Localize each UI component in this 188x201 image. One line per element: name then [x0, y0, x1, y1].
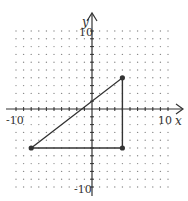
grid-dot: [167, 46, 168, 47]
grid-dot: [129, 54, 130, 55]
grid-dot: [61, 101, 62, 102]
grid-dot: [38, 171, 39, 172]
grid-dot: [46, 93, 47, 94]
grid-dot: [107, 116, 108, 117]
grid-dot: [84, 124, 85, 125]
grid-dot: [69, 38, 70, 39]
grid-dot: [69, 69, 70, 70]
grid-dot: [15, 69, 16, 70]
grid-dot: [46, 62, 47, 63]
grid-dot: [160, 62, 161, 63]
grid-dot: [114, 30, 115, 31]
grid-dot: [38, 69, 39, 70]
grid-dot: [137, 62, 138, 63]
grid-dot: [23, 30, 24, 31]
grid-dot: [76, 124, 77, 125]
grid-dot: [15, 62, 16, 63]
grid-dot: [137, 69, 138, 70]
grid-dot: [84, 171, 85, 172]
grid-dot: [15, 132, 16, 133]
grid-dot: [38, 140, 39, 141]
grid-dot: [129, 116, 130, 117]
grid-dot: [69, 124, 70, 125]
vertex-point: [120, 75, 125, 80]
grid-dot: [167, 140, 168, 141]
grid-dot: [15, 155, 16, 156]
grid-dot: [84, 69, 85, 70]
grid-dot: [137, 46, 138, 47]
grid-dot: [23, 171, 24, 172]
grid-dot: [99, 186, 100, 187]
grid-dot: [107, 30, 108, 31]
grid-dot: [99, 132, 100, 133]
grid-dot: [129, 186, 130, 187]
grid-dot: [46, 140, 47, 141]
grid-dot: [69, 54, 70, 55]
grid-dot: [114, 69, 115, 70]
grid-dot: [152, 124, 153, 125]
grid-dot: [160, 93, 161, 94]
grid-dot: [160, 155, 161, 156]
grid-dot: [122, 179, 123, 180]
grid-dot: [152, 155, 153, 156]
grid-dot: [15, 54, 16, 55]
grid-dot: [137, 179, 138, 180]
grid-dot: [137, 77, 138, 78]
grid-dot: [23, 163, 24, 164]
grid-dot: [69, 155, 70, 156]
grid-dot: [38, 30, 39, 31]
grid-dot: [38, 38, 39, 39]
grid-dot: [107, 62, 108, 63]
grid-dot: [167, 132, 168, 133]
grid-dot: [31, 171, 32, 172]
grid-dot: [167, 38, 168, 39]
grid-dot: [61, 38, 62, 39]
grid-dot: [69, 132, 70, 133]
grid-dot: [38, 124, 39, 125]
grid-dot: [160, 179, 161, 180]
grid-dot: [46, 132, 47, 133]
grid-dot: [160, 69, 161, 70]
grid-dot: [99, 93, 100, 94]
grid-dot: [160, 30, 161, 31]
grid-dot: [84, 116, 85, 117]
grid-dot: [61, 132, 62, 133]
grid-dot: [167, 85, 168, 86]
grid-dot: [23, 62, 24, 63]
grid-dot: [31, 62, 32, 63]
grid-dot: [137, 38, 138, 39]
grid-dot: [53, 46, 54, 47]
grid-dot: [160, 54, 161, 55]
grid-dot: [152, 85, 153, 86]
grid-dot: [137, 85, 138, 86]
grid-dot: [114, 85, 115, 86]
grid-dot: [61, 30, 62, 31]
grid-dot: [31, 30, 32, 31]
grid-dot: [23, 85, 24, 86]
grid-dot: [152, 101, 153, 102]
grid-dot: [107, 140, 108, 141]
grid-dot: [114, 46, 115, 47]
grid-dot: [122, 155, 123, 156]
grid-dot: [145, 155, 146, 156]
grid-dot: [122, 171, 123, 172]
grid-dot: [129, 46, 130, 47]
grid-dot: [99, 116, 100, 117]
grid-dot: [145, 101, 146, 102]
grid-dot: [160, 85, 161, 86]
grid-dot: [137, 147, 138, 148]
grid-dot: [76, 54, 77, 55]
grid-dot: [99, 155, 100, 156]
grid-dot: [99, 62, 100, 63]
grid-dot: [38, 46, 39, 47]
grid-dot: [114, 140, 115, 141]
grid-dot: [38, 163, 39, 164]
grid-dot: [61, 93, 62, 94]
grid-dot: [145, 132, 146, 133]
grid-dot: [167, 30, 168, 31]
grid-dot: [129, 77, 130, 78]
grid-dot: [61, 140, 62, 141]
grid-dot: [53, 54, 54, 55]
grid-dot: [38, 93, 39, 94]
grid-dot: [76, 140, 77, 141]
